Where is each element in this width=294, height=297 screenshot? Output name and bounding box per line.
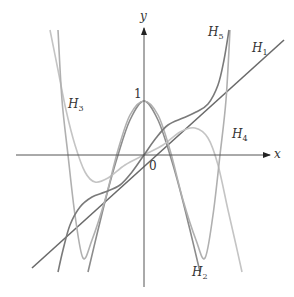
origin-label: 0 (149, 160, 157, 172)
y-tick-one-label: 1 (134, 88, 142, 100)
curve-label-h5: H5 (208, 26, 224, 41)
curve-label-h2: H2 (192, 266, 208, 281)
curve-label-h4: H4 (232, 128, 248, 143)
curves-group (32, 30, 284, 272)
plot-area (0, 0, 294, 297)
x-axis-label: x (274, 148, 281, 160)
y-axis-label: y (140, 10, 147, 22)
curve-h1 (32, 40, 284, 268)
curve-label-h1: H1 (252, 42, 268, 57)
curve-label-h3: H3 (68, 98, 84, 113)
